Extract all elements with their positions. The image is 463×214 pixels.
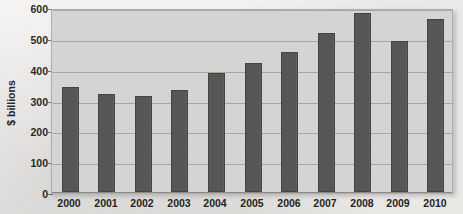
bar-2005 <box>245 63 262 192</box>
plot-area <box>51 9 453 194</box>
bar-chart-figure: $ billions 0100200300400500600 200020012… <box>0 0 463 214</box>
x-axis-baseline <box>52 192 452 193</box>
bar-2008 <box>354 13 371 192</box>
bar-2000 <box>62 87 79 192</box>
y-axis-tick-label: 0 <box>14 189 48 200</box>
chart-screenshot: $ billions 0100200300400500600 200020012… <box>0 0 463 214</box>
y-axis-tick-label: 400 <box>14 66 48 77</box>
x-axis-tick-label: 2010 <box>413 196 457 210</box>
y-axis-tick-label: 300 <box>14 97 48 108</box>
y-axis-tick-label: 200 <box>14 127 48 138</box>
bar-2010 <box>427 19 444 192</box>
y-axis-tick-mark <box>48 194 53 195</box>
y-axis-ticks: 0100200300400500600 <box>8 9 48 194</box>
bar-2007 <box>318 33 335 192</box>
bar-2003 <box>171 90 188 192</box>
x-axis-labels: 2000200120022003200420052006200720082009… <box>51 196 453 212</box>
bar-2002 <box>135 96 152 192</box>
bar-2006 <box>281 52 298 192</box>
bars-layer <box>52 10 452 193</box>
y-axis-tick-label: 100 <box>14 158 48 169</box>
bar-2001 <box>98 94 115 192</box>
bar-2004 <box>208 73 225 192</box>
y-axis-tick-label: 500 <box>14 35 48 46</box>
y-axis-tick-label: 600 <box>14 4 48 15</box>
bar-2009 <box>391 41 408 192</box>
